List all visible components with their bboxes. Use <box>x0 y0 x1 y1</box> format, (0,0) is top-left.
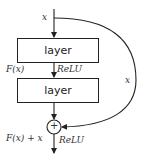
skip-label: x <box>125 75 130 85</box>
relu-2-label: ReLU <box>59 135 84 145</box>
layer-2-label: layer <box>44 84 72 97</box>
layer-2-box: layer <box>17 78 99 103</box>
layer-1-label: layer <box>44 44 72 57</box>
fx-label: F(x) <box>6 64 24 74</box>
output-label: F(x) + x <box>6 133 43 143</box>
input-label: x <box>42 12 47 22</box>
sum-symbol: + <box>50 120 58 131</box>
layer-1-box: layer <box>17 38 99 63</box>
relu-1-label: ReLU <box>57 64 82 74</box>
